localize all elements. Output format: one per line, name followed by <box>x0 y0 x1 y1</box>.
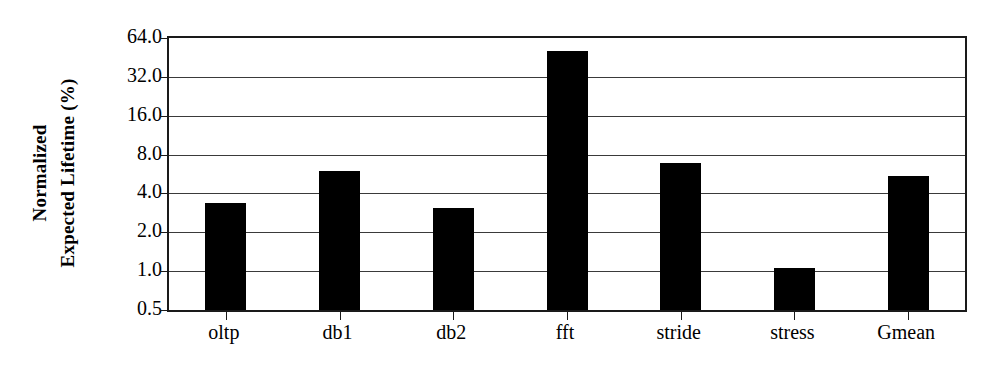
y-axis-tick-label: 0.5 <box>94 298 162 318</box>
x-axis-tick-label-Gmean: Gmean <box>877 322 935 342</box>
x-axis-tick-mark <box>340 310 341 320</box>
bar-db2 <box>433 208 474 310</box>
y-axis-tick-label: 2.0 <box>94 220 162 240</box>
y-axis-tick-mark <box>160 38 169 39</box>
bar-oltp <box>205 203 246 310</box>
x-axis-tick-label-oltp: oltp <box>208 322 239 342</box>
y-axis-tick-label: 32.0 <box>94 65 162 85</box>
y-axis-tick-label: 4.0 <box>94 181 162 201</box>
x-axis-tick-label-stress: stress <box>770 322 814 342</box>
y-axis-tick-label: 64.0 <box>94 26 162 46</box>
y-axis-tick-mark <box>160 155 169 156</box>
x-axis-tick-labels: oltpdb1db2fftstridestressGmean <box>167 322 963 356</box>
bar-chart: Normalized Expected Lifetime (%) 0.51.02… <box>0 0 994 371</box>
y-axis-tick-label: 16.0 <box>94 104 162 124</box>
y-axis-title-line-1: Normalized <box>30 125 49 222</box>
bar-fft <box>547 51 588 310</box>
y-axis-tick-label: 1.0 <box>94 259 162 279</box>
y-axis-tick-mark <box>160 116 169 117</box>
y-axis-tick-mark <box>160 232 169 233</box>
y-axis-tick-mark <box>160 271 169 272</box>
x-axis-tick-mark <box>226 310 227 320</box>
bar-Gmean <box>888 176 929 310</box>
x-axis-tick-mark <box>681 310 682 320</box>
x-axis-tick-mark <box>567 310 568 320</box>
x-axis-tick-label-db1: db1 <box>323 322 353 342</box>
x-axis-tick-mark <box>453 310 454 320</box>
y-axis-tick-mark <box>160 310 169 311</box>
plot-area <box>167 36 967 312</box>
y-axis-tick-mark <box>160 77 169 78</box>
x-axis-tick-label-fft: fft <box>556 322 575 342</box>
bar-stride <box>660 163 701 310</box>
bar-db1 <box>319 171 360 310</box>
x-axis-tick-mark <box>794 310 795 320</box>
y-axis-title-line-2: Expected Lifetime (%) <box>58 79 77 268</box>
x-axis-tick-label-db2: db2 <box>436 322 466 342</box>
y-axis-tick-label: 8.0 <box>94 143 162 163</box>
y-axis-tick-mark <box>160 193 169 194</box>
y-axis-title: Normalized Expected Lifetime (%) <box>14 28 92 318</box>
bar-stress <box>774 268 815 310</box>
y-axis-tick-labels: 0.51.02.04.08.016.032.064.0 <box>90 0 162 371</box>
x-axis-tick-mark <box>908 310 909 320</box>
x-axis-tick-label-stride: stride <box>656 322 700 342</box>
